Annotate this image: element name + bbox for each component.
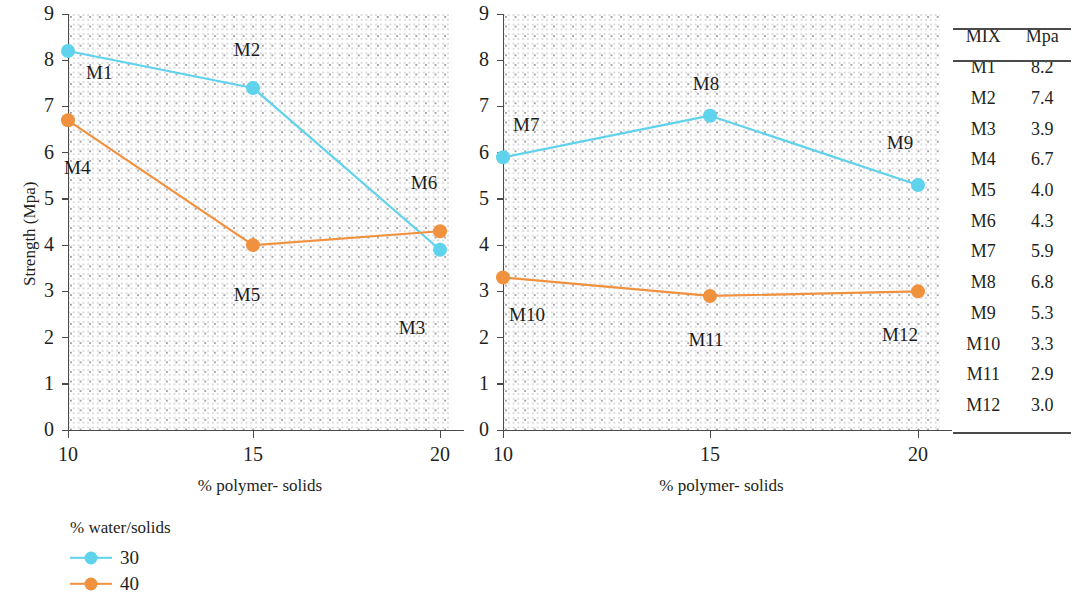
x-axis-line-right [503,430,952,431]
x-tick-mark [918,431,919,438]
plot-area-left [68,14,452,430]
y-tick-label: 7 [455,95,489,115]
table-cell-mpa: 7.4 [1014,83,1071,114]
table-cell-mix: M11 [953,359,1014,390]
table-cell-mpa: 4.3 [1014,205,1071,236]
table-row: M54.0 [953,175,1071,206]
table-row: M27.4 [953,83,1071,114]
y-tick-mark [62,198,69,199]
y-tick-label: 6 [20,142,54,162]
table-cell-mpa: 6.8 [1014,267,1071,298]
table-cell-mix: M1 [953,52,1014,83]
y-axis-line-right [503,14,504,431]
y-tick-label: 0 [20,419,54,439]
y-tick-mark [497,383,504,384]
legend-label: 30 [120,547,139,569]
table-cell-mpa: 3.3 [1014,328,1071,359]
y-tick-mark [497,198,504,199]
y-tick-label: 0 [455,419,489,439]
y-tick-label: 9 [455,3,489,23]
y-tick-label: 4 [455,234,489,254]
y-tick-mark [62,383,69,384]
y-tick-mark [62,60,69,61]
table-rule-top [953,28,1071,30]
x-axis-line-left [68,430,464,431]
y-axis-line-left [68,14,69,431]
y-tick-mark [497,291,504,292]
y-tick-label: 2 [20,327,54,347]
y-tick-mark [62,14,69,15]
y-tick-mark [62,152,69,153]
table-header-mix: MIX [953,20,1014,52]
table-row: M46.7 [953,144,1071,175]
table-cell-mpa: 5.3 [1014,298,1071,329]
y-tick-mark [62,291,69,292]
x-tick-label: 20 [415,444,465,464]
x-tick-mark [440,431,441,438]
table-cell-mix: M4 [953,144,1014,175]
x-tick-mark [710,431,711,438]
x-tick-label: 10 [478,444,528,464]
table-cell-mix: M2 [953,83,1014,114]
legend-swatch-30 [70,550,112,566]
legend-entries: 3040 [70,545,171,596]
table-cell-mpa: 4.0 [1014,175,1071,206]
x-tick-label: 15 [685,444,735,464]
point-label-m4: M4 [64,157,90,179]
y-tick-label: 6 [455,142,489,162]
table-row: M18.2 [953,52,1071,83]
table-rule-bottom [953,432,1071,434]
point-label-m10: M10 [509,304,545,326]
table-cell-mpa: 3.9 [1014,113,1071,144]
table-row: M33.9 [953,113,1071,144]
x-tick-label: 10 [43,444,93,464]
point-label-m12: M12 [870,324,930,346]
table-row: M112.9 [953,359,1071,390]
table-cell-mix: M5 [953,175,1014,206]
table-cell-mix: M7 [953,236,1014,267]
legend-entry[interactable]: 30 [70,545,171,571]
point-label-m2: M2 [217,39,277,61]
y-tick-label: 5 [455,188,489,208]
table-cell-mpa: 6.7 [1014,144,1071,175]
y-tick-label: 1 [20,373,54,393]
y-tick-label: 2 [455,327,489,347]
y-tick-label: 3 [455,280,489,300]
x-tick-label: 20 [893,444,943,464]
table-cell-mix: M3 [953,113,1014,144]
point-label-m1: M1 [86,62,112,84]
point-label-m7: M7 [513,114,539,136]
x-axis-title-left: % polymer- solids [48,476,472,496]
table-row: M86.8 [953,267,1071,298]
y-tick-mark [497,60,504,61]
y-axis-title-left: Strength (Mpa) [20,182,40,286]
y-tick-mark [62,337,69,338]
legend-title: % water/solids [70,518,171,538]
table-body: M18.2M27.4M33.9M46.7M54.0M64.3M75.9M86.8… [953,52,1071,420]
table-header-mpa: Mpa [1014,20,1071,52]
y-tick-mark [497,337,504,338]
mix-strength-table: MIX Mpa M18.2M27.4M33.9M46.7M54.0M64.3M7… [953,20,1071,420]
y-tick-mark [62,245,69,246]
table-row: M75.9 [953,236,1071,267]
table-cell-mpa: 3.0 [1014,390,1071,421]
point-label-m5: M5 [217,284,277,306]
table-header-row: MIX Mpa [953,20,1071,52]
x-tick-mark [503,431,504,438]
point-label-m11: M11 [676,329,736,351]
table-row: M123.0 [953,390,1071,421]
point-label-m3: M3 [382,317,442,339]
table-cell-mpa: 8.2 [1014,52,1071,83]
x-axis-title-right: % polymer- solids [483,476,960,496]
legend: % water/solids 3040 [70,518,171,596]
point-label-m9: M9 [870,132,930,154]
table-rule-mid [953,60,1071,62]
legend-entry[interactable]: 40 [70,571,171,596]
x-tick-mark [253,431,254,438]
table-cell-mix: M8 [953,267,1014,298]
y-tick-mark [62,106,69,107]
table-cell-mpa: 2.9 [1014,359,1071,390]
y-tick-label: 9 [20,3,54,23]
table-cell-mix: M6 [953,205,1014,236]
table-cell-mix: M10 [953,328,1014,359]
